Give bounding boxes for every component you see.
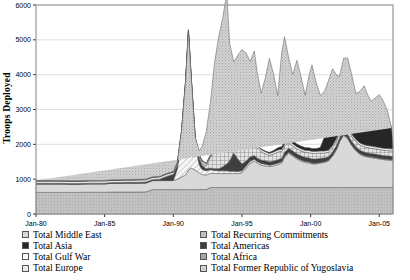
y-tick-label: 4000 [15, 71, 31, 78]
y-tick-label: 2000 [15, 141, 31, 148]
legend-swatch-total-middle-east [22, 231, 29, 238]
legend-swatch-total-gulf-war [22, 253, 29, 260]
legend-swatch-total-asia [22, 242, 29, 249]
y-tick-label: 5000 [15, 36, 31, 43]
legend-item-total-former-republic-of-yugoslavia[interactable]: Total Former Republic of Yugoslavia [200, 263, 400, 274]
legend-item-total-asia[interactable]: Total Asia [22, 240, 200, 251]
legend-label-total-recurring-commitments: Total Recurring Commitments [211, 230, 328, 240]
legend-item-total-gulf-war[interactable]: Total Gulf War [22, 251, 200, 262]
legend-label-total-americas: Total Americas [211, 241, 269, 251]
y-tick-label: 0 [27, 211, 31, 218]
legend-label-total-europe: Total Europe [33, 263, 83, 273]
chart-legend: Total Middle East Total Asia Total Gulf … [22, 229, 402, 277]
legend-label-total-former-republic-of-yugoslavia: Total Former Republic of Yugoslavia [211, 263, 353, 273]
y-tick-label: 3000 [15, 106, 31, 113]
legend-item-total-americas[interactable]: Total Americas [200, 240, 400, 251]
legend-label-total-asia: Total Asia [33, 241, 72, 251]
legend-item-total-recurring-commitments[interactable]: Total Recurring Commitments [200, 229, 400, 240]
x-tick-label: Jan-95 [231, 220, 253, 227]
legend-label-total-gulf-war: Total Gulf War [33, 252, 91, 262]
y-axis-ticks: 0100020003000400050006000 [15, 2, 36, 218]
legend-item-total-europe[interactable]: Total Europe [22, 263, 200, 274]
legend-swatch-total-recurring-commitments [200, 231, 207, 238]
y-tick-label: 6000 [15, 2, 31, 9]
x-tick-label: Jan-85 [94, 220, 116, 227]
x-tick-label: Jan-80 [25, 220, 47, 227]
legend-label-total-middle-east: Total Middle East [33, 230, 102, 240]
x-axis-ticks: Jan-80Jan-85Jan-90Jan-95Jan-00Jan-05 [25, 214, 390, 227]
legend-swatch-total-europe [22, 265, 29, 272]
legend-swatch-total-former-republic-of-yugoslavia [200, 265, 207, 272]
legend-swatch-total-americas [200, 242, 207, 249]
legend-column-left: Total Middle East Total Asia Total Gulf … [22, 229, 200, 277]
legend-label-total-africa: Total Africa [211, 252, 257, 262]
x-tick-label: Jan-00 [300, 220, 322, 227]
stacked-area-plot: 0100020003000400050006000 Jan-80Jan-85Ja… [0, 0, 410, 228]
x-tick-label: Jan-05 [369, 220, 391, 227]
legend-item-total-middle-east[interactable]: Total Middle East [22, 229, 200, 240]
x-tick-label: Jan-90 [163, 220, 185, 227]
legend-swatch-total-africa [200, 253, 207, 260]
legend-item-total-africa[interactable]: Total Africa [200, 251, 400, 262]
chart-figure: Troops Deployed 01 [0, 0, 410, 280]
y-tick-label: 1000 [15, 176, 31, 183]
legend-column-right: Total Recurring Commitments Total Americ… [200, 229, 400, 277]
